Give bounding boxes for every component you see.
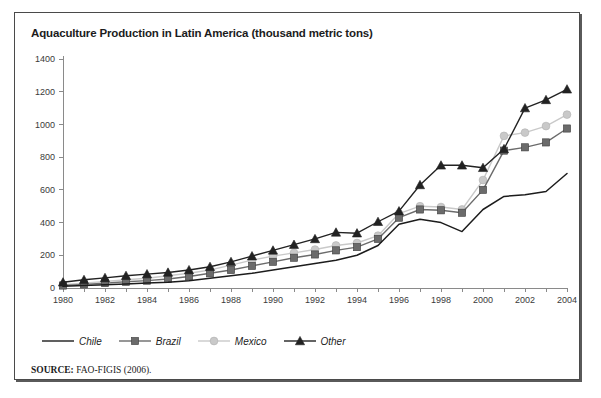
x-tick-label: 1992: [305, 295, 325, 305]
data-point-square: [437, 207, 444, 214]
legend-item-other[interactable]: Other: [283, 335, 346, 347]
series-chile: [63, 174, 567, 287]
data-point-square: [521, 144, 528, 151]
data-point-square: [227, 266, 234, 273]
data-point-circle: [210, 337, 218, 345]
data-point-square: [353, 244, 360, 251]
data-point-square: [131, 337, 138, 344]
source-note: SOURCE: FAO-FIGIS (2006).: [31, 365, 151, 375]
x-tick-label: 1986: [179, 295, 199, 305]
series-brazil: [59, 125, 570, 289]
data-point-square: [311, 251, 318, 258]
source-text: FAO-FIGIS (2006).: [76, 365, 151, 375]
legend-swatch-chile-icon: [41, 335, 75, 347]
chart-series: [58, 85, 571, 289]
data-point-triangle: [520, 103, 529, 111]
chart-plot: 0200400600800100012001400198019821984198…: [15, 13, 581, 381]
data-point-square: [332, 247, 339, 254]
y-tick-label: 200: [40, 250, 55, 260]
source-label: SOURCE:: [31, 365, 74, 375]
x-tick-label: 1988: [221, 295, 241, 305]
data-point-square: [374, 235, 381, 242]
y-tick-label: 400: [40, 218, 55, 228]
legend-swatch-mexico-icon: [197, 335, 231, 347]
x-tick-label: 1990: [263, 295, 283, 305]
data-point-triangle: [541, 95, 550, 103]
y-tick-label: 1400: [35, 54, 55, 64]
data-point-square: [269, 258, 276, 265]
x-tick-label: 2002: [515, 295, 535, 305]
series-line-chile: [63, 174, 567, 287]
x-tick-label: 2000: [473, 295, 493, 305]
y-tick-label: 800: [40, 152, 55, 162]
x-tick-label: 1998: [431, 295, 451, 305]
x-tick-label: 1996: [389, 295, 409, 305]
data-point-square: [458, 209, 465, 216]
y-tick-label: 600: [40, 185, 55, 195]
legend-label-mexico: Mexico: [235, 336, 267, 347]
legend-item-mexico[interactable]: Mexico: [197, 335, 267, 347]
series-line-brazil: [63, 129, 567, 286]
x-tick-label: 1994: [347, 295, 367, 305]
data-point-circle: [542, 122, 550, 130]
chart-axes: 0200400600800100012001400198019821984198…: [35, 54, 577, 305]
data-point-square: [290, 254, 297, 261]
legend-swatch-other-icon: [283, 335, 317, 347]
data-point-square: [479, 186, 486, 193]
data-point-square: [416, 206, 423, 213]
data-point-triangle: [373, 217, 382, 225]
chart-legend: ChileBrazilMexicoOther: [41, 335, 346, 347]
x-tick-label: 1982: [95, 295, 115, 305]
legend-label-chile: Chile: [79, 336, 102, 347]
series-mexico: [59, 111, 571, 289]
data-point-circle: [521, 129, 529, 137]
legend-label-brazil: Brazil: [156, 336, 181, 347]
y-tick-label: 1200: [35, 87, 55, 97]
legend-label-other: Other: [321, 336, 346, 347]
y-tick-label: 1000: [35, 120, 55, 130]
x-tick-label: 1980: [53, 295, 73, 305]
data-point-triangle: [562, 85, 571, 93]
figure-panel: Aquaculture Production in Latin America …: [14, 12, 580, 380]
data-point-square: [563, 125, 570, 132]
legend-swatch-brazil-icon: [118, 335, 152, 347]
data-point-square: [248, 262, 255, 269]
series-line-mexico: [63, 115, 567, 285]
legend-item-brazil[interactable]: Brazil: [118, 335, 181, 347]
data-point-circle: [500, 132, 508, 140]
x-tick-label: 1984: [137, 295, 157, 305]
data-point-circle: [563, 111, 571, 119]
data-point-square: [542, 139, 549, 146]
x-tick-label: 2004: [557, 295, 577, 305]
data-point-circle: [479, 176, 487, 184]
y-tick-label: 0: [50, 283, 55, 293]
legend-item-chile[interactable]: Chile: [41, 335, 102, 347]
